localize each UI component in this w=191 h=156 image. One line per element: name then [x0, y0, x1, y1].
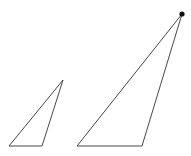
large-triangle — [77, 14, 182, 146]
small-triangle — [9, 80, 63, 146]
triangles-figure — [0, 0, 191, 156]
vertex-dot — [179, 11, 184, 16]
diagram-canvas — [0, 0, 191, 156]
